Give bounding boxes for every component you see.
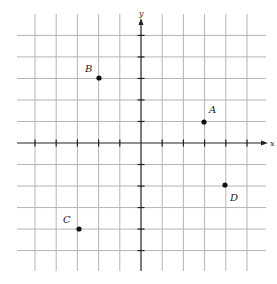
point-c bbox=[76, 226, 81, 231]
y-axis-label: y bbox=[138, 9, 144, 18]
point-a-label: A bbox=[208, 104, 216, 115]
point-c-label: C bbox=[63, 214, 71, 225]
y-axis-arrow-icon bbox=[139, 18, 144, 25]
point-b-label: B bbox=[84, 63, 92, 74]
points: A B C D bbox=[63, 63, 238, 232]
point-d bbox=[222, 182, 227, 187]
coordinate-plane: x y A B C D bbox=[0, 0, 277, 284]
point-b bbox=[96, 75, 101, 80]
x-axis-arrow-icon bbox=[261, 141, 268, 146]
x-axis-label: x bbox=[270, 139, 275, 148]
point-d-label: D bbox=[229, 192, 238, 203]
point-a bbox=[201, 119, 206, 124]
